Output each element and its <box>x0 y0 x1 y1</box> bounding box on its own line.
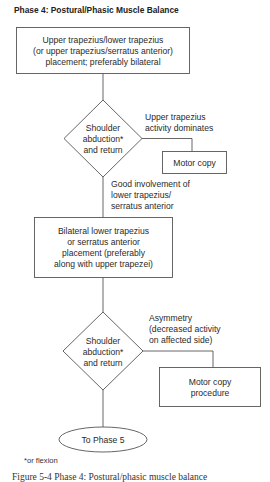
decision1-line: Shoulder <box>86 123 120 134</box>
edge-label-d2-right: Asymmetry (decreased activity on affecte… <box>149 313 221 346</box>
end-oval: To Phase 5 <box>59 428 147 452</box>
edge-label-line: lower trapezius/ <box>111 190 190 201</box>
box2-line: or serratus anterior <box>67 237 140 248</box>
motor-copy-box: Motor copy <box>162 152 227 174</box>
edge-label-line: activity dominates <box>145 123 213 134</box>
end-oval-line: To Phase 5 <box>82 435 125 446</box>
edge-label-d1-right: Upper trapezius activity dominates <box>145 112 213 134</box>
figure-caption: Figure 5-4 Phase 4: Postural/phasic musc… <box>12 472 207 482</box>
edge-label-line: on affected side) <box>149 335 221 346</box>
start-box-line: placement; preferably bilateral <box>45 57 160 68</box>
connector-decision2-to-motor-copy-procedure <box>143 351 213 368</box>
decision2-line: and return <box>83 358 122 369</box>
edge-label-line: Upper trapezius <box>145 112 213 123</box>
decision1-line: abduction* <box>83 134 124 145</box>
edge-label-line: (decreased activity <box>149 324 221 335</box>
edge-label-d1-down: Good involvement of lower trapezius/ ser… <box>111 179 190 212</box>
decision2: Shoulder abduction* and return <box>66 333 140 371</box>
connector-decision1-to-motor-copy <box>142 139 192 152</box>
motor-copy-procedure-box: Motor copy procedure <box>159 368 261 407</box>
motor-copy-line: Motor copy <box>173 158 216 169</box>
start-box-line: (or upper trapezius/serratus anterior) <box>33 46 173 57</box>
edge-label-line: Asymmetry <box>149 313 221 324</box>
box2-line: placement (preferably <box>62 248 145 259</box>
footnote: *or flexion <box>24 456 58 465</box>
start-box: Upper trapezius/lower trapezius (or uppe… <box>16 28 190 74</box>
motor-copy-procedure-line: procedure <box>191 388 230 399</box>
box2: Bilateral lower trapezius or serratus an… <box>34 218 173 278</box>
edge-label-line: serratus anterior <box>111 201 190 212</box>
decision2-line: abduction* <box>83 347 124 358</box>
start-box-line: Upper trapezius/lower trapezius <box>43 35 164 46</box>
decision1: Shoulder abduction* and return <box>66 120 140 158</box>
decision2-line: Shoulder <box>86 336 120 347</box>
decision1-line: and return <box>83 145 122 156</box>
box2-line: Bilateral lower trapezius <box>58 226 149 237</box>
box2-line: along with upper trapezei) <box>54 259 153 270</box>
edge-label-line: Good involvement of <box>111 179 190 190</box>
motor-copy-procedure-line: Motor copy <box>189 377 232 388</box>
